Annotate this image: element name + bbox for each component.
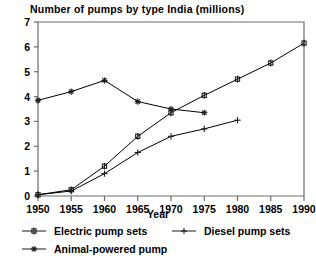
legend-label: Diesel pump sets xyxy=(204,225,291,237)
y-tick-label: 6 xyxy=(24,41,30,53)
y-tick-label: 3 xyxy=(24,115,30,127)
data-point xyxy=(302,40,306,47)
series-line xyxy=(38,120,238,195)
series-2 xyxy=(35,117,241,198)
data-point xyxy=(168,133,174,139)
y-axis-ticks: 01234567 xyxy=(24,16,38,202)
y-tick-label: 7 xyxy=(24,16,30,28)
data-point xyxy=(135,98,141,104)
x-axis-ticks: 195019551960196519701975198019851990 xyxy=(26,196,316,215)
legend-label: Electric pump sets xyxy=(54,225,148,237)
legend-label: Animal-powered pump xyxy=(54,243,167,255)
x-tick-label: 1990 xyxy=(292,203,316,215)
chart-root: Number of pumps by type India (millions)… xyxy=(0,0,316,259)
x-tick-label: 1960 xyxy=(93,203,117,215)
data-point xyxy=(102,163,106,170)
x-tick-label: 1985 xyxy=(259,203,283,215)
data-point xyxy=(135,149,141,155)
legend-marker-star xyxy=(31,246,37,252)
y-tick-label: 2 xyxy=(24,140,30,152)
data-point xyxy=(68,89,74,95)
series-1 xyxy=(36,40,306,198)
data-point xyxy=(35,97,41,103)
chart-title: Number of pumps by type India (millions) xyxy=(30,3,245,15)
legend-entry: Diesel pump sets xyxy=(172,225,291,237)
x-tick-label: 1975 xyxy=(193,203,217,215)
data-point xyxy=(269,60,273,67)
legend-entry: Electric pump sets xyxy=(22,225,148,237)
legend-entry: Animal-powered pump xyxy=(22,243,167,255)
legend-marker-plus xyxy=(181,228,187,234)
data-point xyxy=(168,106,174,112)
chart-legend: Electric pump setsDiesel pump setsAnimal… xyxy=(22,225,291,255)
series-3 xyxy=(35,77,207,116)
y-tick-label: 1 xyxy=(24,165,30,177)
x-tick-label: 1950 xyxy=(26,203,50,215)
x-axis-label: Year xyxy=(147,208,169,220)
x-tick-label: 1980 xyxy=(226,203,250,215)
series-layer xyxy=(35,40,306,198)
data-point xyxy=(235,76,239,83)
x-tick-label: 1955 xyxy=(60,203,84,215)
y-tick-label: 0 xyxy=(24,190,30,202)
pumps-line-chart: Number of pumps by type India (millions)… xyxy=(0,0,316,259)
y-tick-label: 5 xyxy=(24,66,30,78)
y-tick-label: 4 xyxy=(24,91,30,103)
data-point xyxy=(201,126,207,132)
data-point xyxy=(201,110,207,116)
series-line xyxy=(38,43,304,195)
data-point xyxy=(136,133,140,140)
data-point xyxy=(202,92,206,99)
data-point xyxy=(101,171,107,177)
data-point xyxy=(101,77,107,83)
data-point xyxy=(234,117,240,123)
